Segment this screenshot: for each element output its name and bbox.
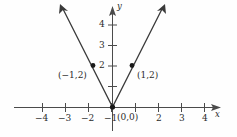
y-tick-label-3: 3 — [99, 41, 105, 50]
x-tick-label-pos3: 3 — [179, 114, 185, 123]
x-tick-label-neg1: −1 — [104, 114, 117, 123]
annotation-point-right: (1,2) — [137, 71, 158, 80]
x-tick-label-pos4: 4 — [202, 114, 208, 123]
data-point-right — [130, 63, 135, 68]
curve-left-arrow-icon — [59, 4, 68, 14]
x-tick-label-neg3: −3 — [58, 114, 71, 123]
data-point-origin — [110, 104, 115, 109]
y-tick-label-2: 2 — [99, 61, 105, 70]
y-axis-label: y — [117, 2, 122, 11]
x-tick-label-neg4: −4 — [35, 114, 48, 123]
annotation-point-left: (−1,2) — [58, 71, 87, 80]
y-tick-label-4: 4 — [99, 20, 105, 29]
data-point-left — [91, 63, 96, 68]
curve-right-arrow-icon — [157, 4, 166, 14]
annotation-point-origin: (0,0) — [117, 113, 138, 122]
x-tick-label-pos2: 2 — [156, 114, 162, 123]
graph-figure: −4 −3 −2 −1 2 3 4 2 3 4 x y (−1,2) (1,2)… — [0, 0, 237, 137]
x-axis-label: x — [215, 110, 220, 119]
x-tick-label-neg2: −2 — [81, 114, 94, 123]
